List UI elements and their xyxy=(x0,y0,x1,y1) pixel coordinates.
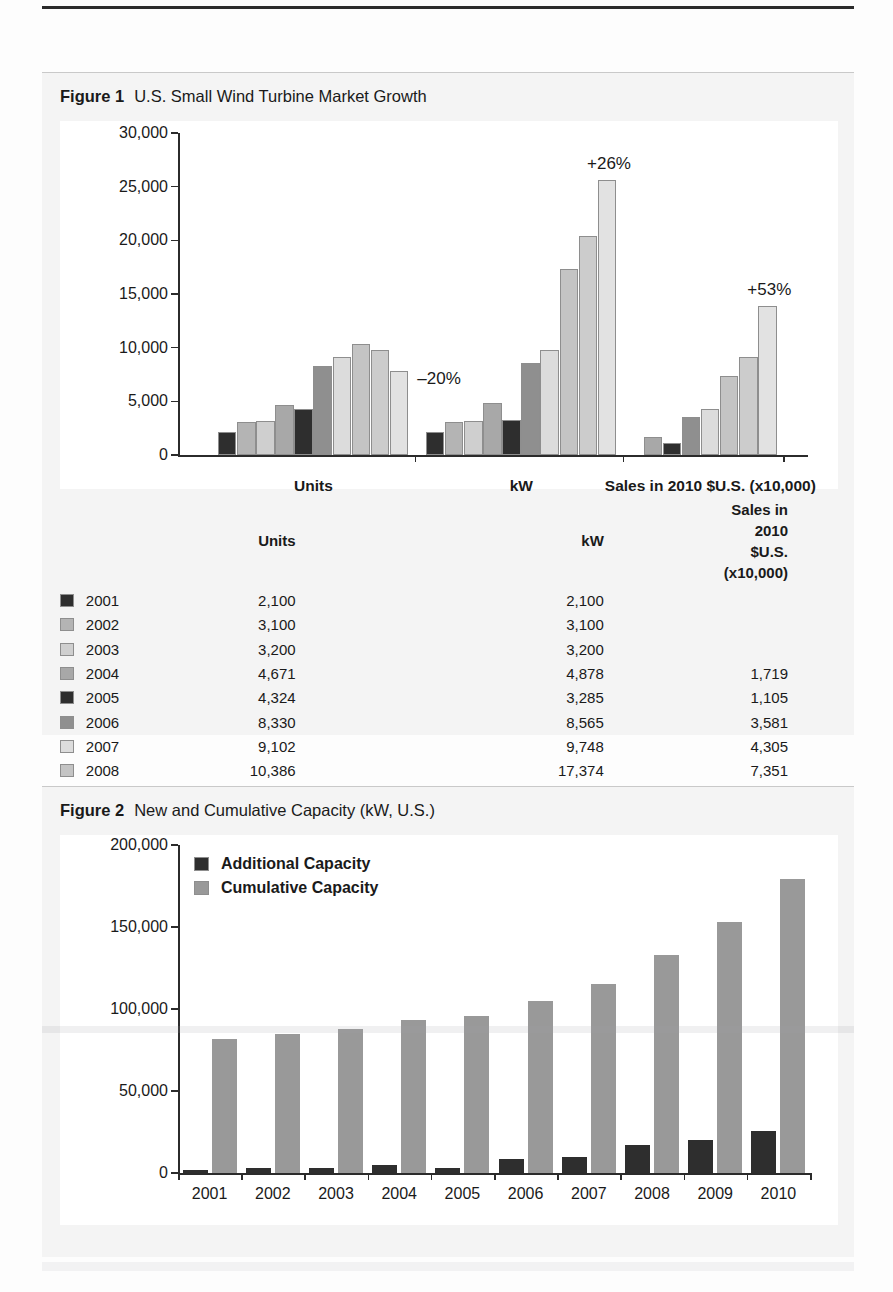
figure-2-bar-cumulative xyxy=(338,1029,363,1173)
figure-1-panel: Figure 1U.S. Small Wind Turbine Market G… xyxy=(42,72,854,735)
figure-1-bar xyxy=(464,421,483,455)
figure-1-y-tick-label: 30,000 xyxy=(98,124,168,142)
row-kw: 3,285 xyxy=(446,686,724,710)
row-swatch-cell xyxy=(60,637,86,661)
header-year xyxy=(86,497,148,589)
figure-1-bar xyxy=(663,443,682,455)
figure-2-bar-additional xyxy=(562,1157,587,1173)
figure-1-bar xyxy=(540,350,559,455)
figure-1-x-tick xyxy=(783,455,785,462)
series-swatch xyxy=(60,643,74,656)
row-units: 10,386 xyxy=(147,759,445,783)
series-swatch xyxy=(60,691,74,704)
figure-1-bar xyxy=(275,405,294,455)
row-year: 2001 xyxy=(86,589,148,613)
legend-item-additional: Additional Capacity xyxy=(194,855,378,873)
figure-1-y-tick-label: 15,000 xyxy=(98,285,168,303)
scan-artifact-bottom xyxy=(42,1262,854,1271)
figure-2-bar-additional xyxy=(688,1140,713,1173)
figure-1-bar xyxy=(598,180,617,455)
figure-1-bar xyxy=(502,420,521,455)
figure-1-data-table: Units kW Sales in 2010 $U.S. (x10,000) 2… xyxy=(60,497,840,832)
table-row: 20044,6714,8781,719 xyxy=(60,662,840,686)
figure-2-y-tick xyxy=(171,926,178,928)
figure-2-y-axis xyxy=(178,845,180,1173)
row-year: 2002 xyxy=(86,613,148,637)
figure-2-bar-cumulative xyxy=(780,879,805,1173)
table-header-row: Units kW Sales in 2010 $U.S. (x10,000) xyxy=(60,497,840,589)
figure-2-bar-additional xyxy=(309,1168,334,1173)
row-year: 2008 xyxy=(86,759,148,783)
figure-1-annotation-0: –20% xyxy=(417,369,460,389)
figure-2-bar-cumulative xyxy=(212,1039,237,1173)
figure-1-bar xyxy=(720,376,739,455)
figure-2-y-tick-label: 150,000 xyxy=(82,918,168,936)
row-sales xyxy=(724,637,840,661)
figure-2-bar-additional xyxy=(751,1131,776,1173)
legend-swatch-additional-capacity xyxy=(194,857,209,871)
figure-1-annotation-1: +26% xyxy=(587,154,631,174)
table-row: 20054,3243,2851,105 xyxy=(60,686,840,710)
figure-1-y-tick-label: 5,000 xyxy=(98,392,168,410)
header-sales: Sales in 2010 $U.S. (x10,000) xyxy=(724,497,840,589)
figure-2-bar-additional xyxy=(372,1165,397,1173)
row-swatch-cell xyxy=(60,662,86,686)
figure-2-title: New and Cumulative Capacity (kW, U.S.) xyxy=(134,801,435,819)
figure-1-bar xyxy=(701,409,720,455)
figure-1-y-tick xyxy=(171,240,178,242)
row-swatch-cell xyxy=(60,710,86,734)
series-swatch xyxy=(60,618,74,631)
figure-1-caption: Figure 1U.S. Small Wind Turbine Market G… xyxy=(60,87,427,106)
header-units: Units xyxy=(147,497,445,589)
figure-1-bar xyxy=(739,357,758,455)
table-row: 20068,3308,5653,581 xyxy=(60,710,840,734)
figure-2-x-tick xyxy=(178,1173,180,1180)
figure-1-y-tick-label: 25,000 xyxy=(98,178,168,196)
figure-1-y-tick-label: 20,000 xyxy=(98,231,168,249)
figure-1-bar xyxy=(445,422,464,455)
figure-2-y-tick-label: 50,000 xyxy=(82,1082,168,1100)
figure-2-bar-additional xyxy=(499,1159,524,1173)
row-swatch-cell xyxy=(60,686,86,710)
row-year: 2005 xyxy=(86,686,148,710)
row-kw: 3,200 xyxy=(446,637,724,661)
figure-1-bar xyxy=(560,269,579,455)
legend-label-cumulative-capacity: Cumulative Capacity xyxy=(221,879,378,897)
row-units: 4,324 xyxy=(147,686,445,710)
row-sales xyxy=(724,613,840,637)
figure-2-x-tick xyxy=(684,1173,686,1180)
figure-2-x-tick-end xyxy=(810,1173,812,1180)
row-units: 3,100 xyxy=(147,613,445,637)
figure-2-x-tick-label-2003: 2003 xyxy=(318,1185,354,1203)
figure-2-bar-cumulative xyxy=(464,1016,489,1173)
row-sales: 4,305 xyxy=(724,734,840,758)
series-swatch xyxy=(60,740,74,753)
figure-1-y-tick xyxy=(171,132,178,134)
figure-1-x-tick xyxy=(415,455,417,462)
figure-2-legend: Additional Capacity Cumulative Capacity xyxy=(194,855,378,903)
figure-2-bar-additional xyxy=(435,1168,460,1173)
figure-2-bar-cumulative xyxy=(401,1020,426,1173)
figure-2-bar-additional xyxy=(246,1168,271,1173)
legend-label-additional-capacity: Additional Capacity xyxy=(221,855,370,873)
figure-1-y-tick xyxy=(171,454,178,456)
row-sales: 1,105 xyxy=(724,686,840,710)
row-swatch-cell xyxy=(60,613,86,637)
figure-1-bar xyxy=(521,363,540,455)
figure-2-bar-cumulative xyxy=(528,1001,553,1173)
figure-1-x-axis xyxy=(178,455,808,457)
series-swatch xyxy=(60,764,74,777)
figure-1-bar xyxy=(644,437,663,455)
figure-1-y-tick-label: 0 xyxy=(98,446,168,464)
figure-1-number: Figure 1 xyxy=(60,87,124,105)
figure-2-x-tick xyxy=(620,1173,622,1180)
table-row: 20023,1003,100 xyxy=(60,613,840,637)
figure-1-y-tick xyxy=(171,401,178,403)
figure-2-x-tick xyxy=(557,1173,559,1180)
figure-2-x-tick xyxy=(431,1173,433,1180)
row-year: 2006 xyxy=(86,710,148,734)
row-year: 2003 xyxy=(86,637,148,661)
figure-2-x-tick xyxy=(747,1173,749,1180)
figure-1-y-tick xyxy=(171,293,178,295)
figure-2-y-tick xyxy=(171,1090,178,1092)
